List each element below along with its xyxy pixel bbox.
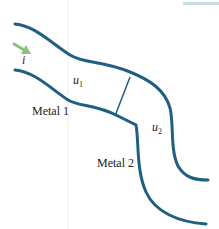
u1-label: u1 bbox=[73, 74, 83, 89]
interface-line bbox=[115, 77, 130, 116]
incident-label: i bbox=[22, 54, 25, 66]
lower-wall bbox=[15, 70, 206, 224]
metal1-label: Metal 1 bbox=[32, 105, 69, 117]
u1-subscript: 1 bbox=[79, 80, 83, 89]
metal2-label: Metal 2 bbox=[97, 157, 134, 169]
u2-subscript: 2 bbox=[158, 127, 162, 136]
u2-label: u2 bbox=[152, 121, 162, 136]
diagram-canvas: ▬▬▬▬▬ i u1 Metal 1 u2 Metal 2 bbox=[0, 0, 219, 229]
